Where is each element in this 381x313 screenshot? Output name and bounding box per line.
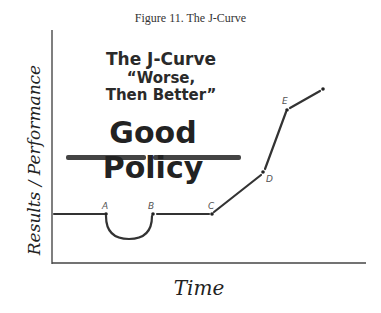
- point-label-d: D: [266, 174, 273, 184]
- x-axis-label: Time: [174, 276, 225, 300]
- good-policy-label: Good Policy: [60, 115, 246, 185]
- point-label-a: A: [101, 201, 108, 211]
- y-axis-label: Results / Performance: [24, 65, 44, 256]
- point-label-e: E: [282, 96, 288, 106]
- point-label-b: B: [148, 201, 154, 211]
- subtitle-line-1: “Worse,: [66, 69, 256, 87]
- point-label-c: C: [208, 201, 215, 211]
- subtitle-line-2: Then Better”: [66, 86, 256, 104]
- diagram-title: The J-Curve: [66, 49, 256, 69]
